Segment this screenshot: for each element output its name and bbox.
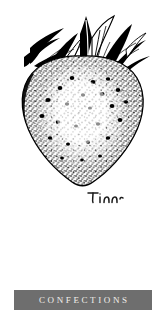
caption-banner: CONFECTIONS [14,290,152,310]
artist-signature [86,190,126,206]
illustration-card: CONFECTIONS [0,0,165,321]
strawberry-illustration [0,0,165,215]
strawberry-highlight [56,80,108,144]
caption-label: CONFECTIONS [36,296,129,305]
